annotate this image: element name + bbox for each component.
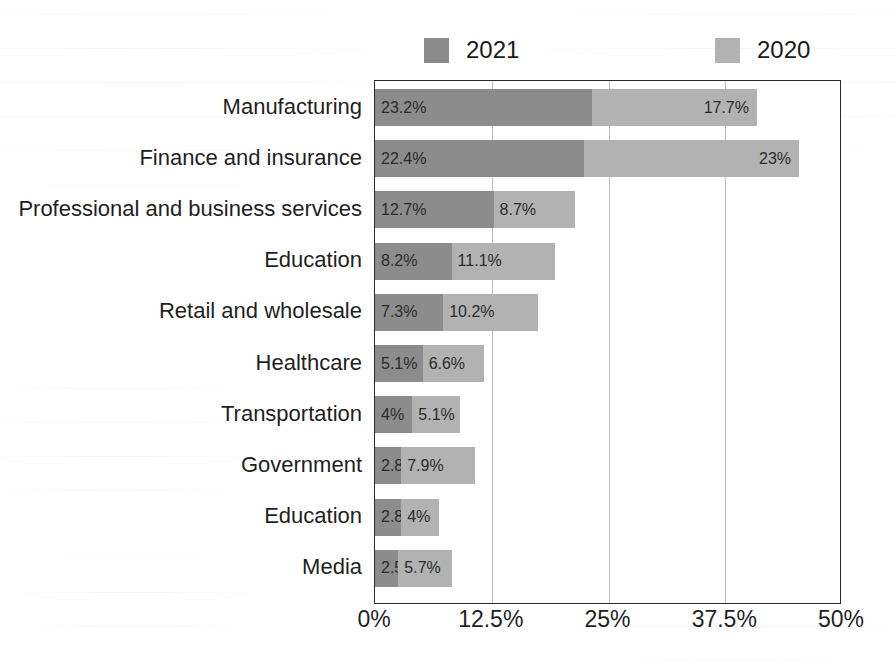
legend-label-2021: 2021	[466, 38, 519, 62]
bar-segment-2020[interactable]: 17.7%	[592, 89, 757, 126]
bar-value-label-2020: 10.2%	[449, 304, 494, 320]
category-label: Finance and insurance	[139, 139, 362, 176]
bar-value-label-2021: 12.7%	[381, 202, 426, 218]
bar-segment-2020[interactable]: 10.2%	[443, 294, 538, 331]
bar-row: 7.3%10.2%	[375, 294, 840, 331]
chart-legend: 2021 2020	[0, 34, 896, 66]
x-tick-label: 12.5%	[458, 608, 523, 631]
category-label: Professional and business services	[18, 190, 362, 227]
bar-segment-2020[interactable]: 23%	[584, 140, 799, 177]
bar-value-label-2021: 23.2%	[381, 100, 426, 116]
category-label: Media	[302, 549, 362, 586]
bar-row: 2.5%5.7%	[375, 550, 840, 587]
legend-entry-2021[interactable]: 2021	[424, 34, 519, 66]
bar-row: 2.8%7.9%	[375, 447, 840, 484]
bar-value-label-2021: 22.4%	[381, 151, 426, 167]
category-label: Education	[264, 498, 362, 535]
category-label: Education	[264, 242, 362, 279]
bar-value-label-2020: 23%	[759, 151, 791, 167]
category-label: Retail and wholesale	[159, 293, 362, 330]
bar-value-label-2020: 4%	[407, 509, 430, 525]
bar-segment-2020[interactable]: 5.1%	[412, 396, 460, 433]
bar-segment-2020[interactable]: 5.7%	[398, 550, 451, 587]
value-axis: 0%12.5%25%37.5%50%	[374, 608, 841, 648]
x-tick-label: 0%	[357, 608, 390, 631]
bar-segment-2020[interactable]: 11.1%	[452, 243, 556, 280]
bar-segment-2021[interactable]: 7.3%	[375, 294, 443, 331]
stacked-bar-chart: 2021 2020 ManufacturingFinance and insur…	[0, 0, 896, 666]
bar-value-label-2021: 8.2%	[381, 253, 417, 269]
bar-segment-2020[interactable]: 6.6%	[423, 345, 485, 382]
legend-swatch-2020	[715, 38, 740, 63]
bar-row: 2.8%4%	[375, 499, 840, 536]
category-label: Healthcare	[256, 344, 362, 381]
legend-entry-2020[interactable]: 2020	[715, 34, 810, 66]
bar-value-label-2020: 7.9%	[407, 458, 443, 474]
bar-segment-2021[interactable]: 8.2%	[375, 243, 452, 280]
bar-row: 22.4%23%	[375, 140, 840, 177]
bar-segment-2021[interactable]: 2.8%	[375, 499, 401, 536]
bar-segment-2020[interactable]: 4%	[401, 499, 438, 536]
bar-segment-2021[interactable]: 12.7%	[375, 191, 494, 228]
bar-segment-2021[interactable]: 23.2%	[375, 89, 592, 126]
bar-segment-2020[interactable]: 7.9%	[401, 447, 475, 484]
plot-area: 23.2%17.7%22.4%23%12.7%8.7%8.2%11.1%7.3%…	[374, 80, 841, 604]
bar-value-label-2021: 5.1%	[381, 356, 417, 372]
bar-value-label-2021: 4%	[381, 407, 404, 423]
bar-row: 4%5.1%	[375, 396, 840, 433]
category-label: Transportation	[221, 395, 362, 432]
bar-segment-2021[interactable]: 2.5%	[375, 550, 398, 587]
bar-value-label-2020: 8.7%	[500, 202, 536, 218]
bar-value-label-2020: 5.7%	[404, 560, 440, 576]
bar-segment-2021[interactable]: 22.4%	[375, 140, 584, 177]
bar-segment-2021[interactable]: 4%	[375, 396, 412, 433]
bar-row: 5.1%6.6%	[375, 345, 840, 382]
category-label: Manufacturing	[223, 88, 362, 125]
bar-row: 8.2%11.1%	[375, 243, 840, 280]
bar-row: 23.2%17.7%	[375, 89, 840, 126]
bar-rows: 23.2%17.7%22.4%23%12.7%8.7%8.2%11.1%7.3%…	[375, 81, 840, 603]
legend-label-2020: 2020	[757, 38, 810, 62]
bar-segment-2020[interactable]: 8.7%	[494, 191, 575, 228]
x-tick-label: 37.5%	[692, 608, 757, 631]
legend-swatch-2021	[424, 38, 449, 63]
x-tick-label: 50%	[818, 608, 864, 631]
category-label: Government	[241, 446, 362, 483]
bar-value-label-2020: 5.1%	[418, 407, 454, 423]
bar-segment-2021[interactable]: 5.1%	[375, 345, 423, 382]
x-tick-label: 25%	[584, 608, 630, 631]
bar-value-label-2020: 6.6%	[429, 356, 465, 372]
bar-value-label-2020: 17.7%	[704, 100, 749, 116]
bar-row: 12.7%8.7%	[375, 191, 840, 228]
category-axis: ManufacturingFinance and insuranceProfes…	[0, 80, 368, 604]
bar-value-label-2021: 7.3%	[381, 304, 417, 320]
bar-segment-2021[interactable]: 2.8%	[375, 447, 401, 484]
bar-value-label-2020: 11.1%	[458, 253, 502, 269]
